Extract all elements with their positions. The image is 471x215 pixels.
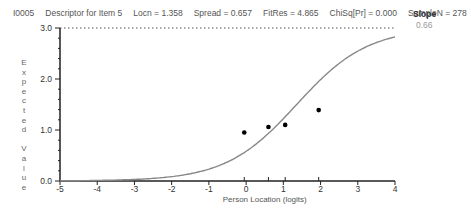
observed-point — [283, 123, 288, 128]
y-tick-label: 3.0 — [40, 23, 52, 33]
x-tick-label: -1 — [205, 184, 213, 194]
x-tick-label: -2 — [168, 184, 176, 194]
x-tick-label: 3 — [355, 184, 360, 194]
y-tick-label: 1.0 — [40, 125, 52, 135]
x-tick-label: -3 — [131, 184, 139, 194]
x-tick-label: 4 — [393, 184, 398, 194]
x-tick-label: 0 — [244, 184, 249, 194]
expected-value-curve — [60, 37, 395, 181]
x-tick-label: 1 — [281, 184, 286, 194]
x-axis-label: Person Location (logits) — [223, 195, 307, 204]
observed-point — [242, 130, 247, 135]
observed-point — [266, 125, 271, 130]
x-tick-label: 2 — [318, 184, 323, 194]
x-tick-label: -4 — [93, 184, 101, 194]
x-tick-label: -5 — [56, 184, 64, 194]
y-tick-label: 0.0 — [40, 176, 52, 186]
observed-point — [316, 108, 321, 113]
y-tick-label: 2.0 — [40, 74, 52, 84]
